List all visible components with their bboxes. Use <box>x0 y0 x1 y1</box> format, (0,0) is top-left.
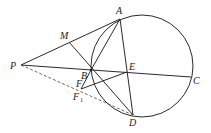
segment-PD-dashed <box>21 65 133 115</box>
label-F1-subscript: 1 <box>80 97 83 103</box>
segment-PA <box>21 19 120 65</box>
label-A: A <box>115 5 123 16</box>
segment-FE <box>81 72 127 89</box>
circle <box>91 15 193 117</box>
label-C: C <box>193 75 200 86</box>
label-F: F <box>75 78 83 89</box>
segment-PC <box>21 65 191 77</box>
label-E: E <box>128 61 135 72</box>
label-M: M <box>59 30 69 41</box>
label-F1: F <box>72 91 80 102</box>
label-D: D <box>128 117 137 128</box>
point-B <box>90 69 93 72</box>
label-P: P <box>9 60 16 71</box>
geometry-diagram: A M P B E C F F 1 D <box>0 0 211 133</box>
